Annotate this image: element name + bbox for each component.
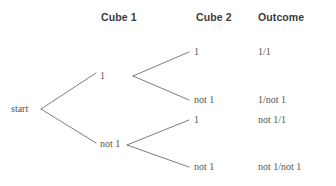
tree-outcome-not-1-not-1: not 1/not 1 [258,161,301,172]
tree-node-cube2-not-one-b: not 1 [194,161,214,172]
edge-root-to-c1-one [41,73,96,109]
edge-c1not1-to-c2-one [127,120,189,145]
edge-c1one-to-c2-one [133,52,189,76]
tree-outcome-not-1-1: not 1/1 [258,114,286,125]
tree-node-cube1-not-one: not 1 [100,138,120,149]
tree-node-cube2-one-b: 1 [194,114,199,125]
tree-node-cube1-one: 1 [100,70,105,81]
tree-node-start: start [11,103,28,114]
column-header-outcome: Outcome [258,11,304,23]
tree-outcome-1-not-1: 1/not 1 [258,94,286,105]
tree-diagram-canvas: Cube 1 Cube 2 Outcome start 1 not 1 1 no… [0,0,336,186]
tree-outcome-1-1: 1/1 [258,46,271,57]
tree-node-cube2-one-a: 1 [194,46,199,57]
tree-edges [0,0,336,186]
edge-c1not1-to-c2-not1 [127,145,189,167]
edge-root-to-c1-not1 [41,109,96,143]
tree-node-cube2-not-one-a: not 1 [194,94,214,105]
edge-c1one-to-c2-not1 [133,76,189,100]
column-header-cube-1: Cube 1 [101,11,137,23]
column-header-cube-2: Cube 2 [196,11,232,23]
